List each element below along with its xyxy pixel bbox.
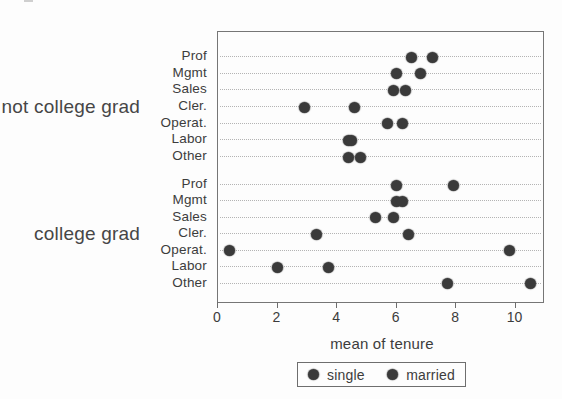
x-tick-8 — [455, 302, 456, 308]
dot-college-grad-operat-married — [504, 245, 515, 256]
category-label-not-college-grad-other: Other — [0, 147, 207, 165]
dot-not-college-grad-other-married — [355, 152, 366, 163]
category-label-college-grad-cler: Cler. — [0, 224, 207, 242]
x-tick-6 — [396, 302, 397, 308]
gridline-not-college-grad-cler — [220, 106, 541, 107]
category-label-college-grad-sales: Sales — [0, 208, 207, 226]
dot-not-college-grad-sales-married — [400, 85, 411, 96]
legend-entry-single: single — [308, 367, 365, 383]
x-tick-0 — [217, 302, 218, 308]
dot-not-college-grad-prof-married — [427, 52, 438, 63]
dot-not-college-grad-mgmt-married — [415, 68, 426, 79]
category-label-not-college-grad-operat: Operat. — [0, 114, 207, 132]
gridline-not-college-grad-labor — [220, 139, 541, 140]
dot-plot-figure: not college grad college grad mean of te… — [0, 0, 562, 399]
dot-college-grad-prof-married — [448, 180, 459, 191]
dot-college-grad-sales-single — [370, 212, 381, 223]
gridline-college-grad-prof — [220, 184, 541, 185]
gridline-not-college-grad-mgmt — [220, 73, 541, 74]
category-label-not-college-grad-labor: Labor — [0, 130, 207, 148]
dot-college-grad-other-married — [525, 278, 536, 289]
dot-not-college-grad-prof-single — [406, 52, 417, 63]
x-tick-10 — [515, 302, 516, 308]
plot-area — [217, 31, 544, 303]
gridline-college-grad-other — [220, 283, 541, 284]
category-label-not-college-grad-cler: Cler. — [0, 97, 207, 115]
category-label-college-grad-labor: Labor — [0, 257, 207, 275]
category-label-not-college-grad-prof: Prof — [0, 47, 207, 65]
legend-label-single: single — [327, 367, 365, 383]
dot-not-college-grad-sales-single — [388, 85, 399, 96]
category-label-not-college-grad-mgmt: Mgmt — [0, 64, 207, 82]
x-tick-label-8: 8 — [438, 309, 472, 325]
x-axis-title: mean of tenure — [282, 335, 482, 352]
legend-entry-married: married — [387, 367, 455, 383]
legend-label-married: married — [406, 367, 455, 383]
gridline-college-grad-cler — [220, 233, 541, 234]
x-tick-4 — [336, 302, 337, 308]
dot-not-college-grad-operat-married — [397, 118, 408, 129]
married-marker-icon — [387, 369, 398, 380]
dot-college-grad-other-single — [442, 278, 453, 289]
gridline-not-college-grad-other — [220, 156, 541, 157]
gridline-college-grad-mgmt — [220, 200, 541, 201]
x-tick-label-2: 2 — [260, 309, 294, 325]
x-tick-label-6: 6 — [379, 309, 413, 325]
gridline-not-college-grad-prof — [220, 56, 541, 57]
category-label-college-grad-prof: Prof — [0, 175, 207, 193]
scan-artifact — [24, 0, 33, 2]
dot-college-grad-mgmt-married — [397, 196, 408, 207]
dot-not-college-grad-cler-married — [349, 102, 360, 113]
dot-college-grad-labor-single — [272, 262, 283, 273]
dot-not-college-grad-other-single — [343, 152, 354, 163]
dot-college-grad-labor-married — [323, 262, 334, 273]
dot-not-college-grad-operat-single — [382, 118, 393, 129]
gridline-not-college-grad-operat — [220, 123, 541, 124]
dot-college-grad-cler-married — [403, 229, 414, 240]
dot-college-grad-prof-single — [391, 180, 402, 191]
dot-not-college-grad-mgmt-single — [391, 68, 402, 79]
dot-college-grad-cler-single — [311, 229, 322, 240]
category-label-not-college-grad-sales: Sales — [0, 80, 207, 98]
dot-college-grad-operat-single — [224, 245, 235, 256]
x-tick-2 — [277, 302, 278, 308]
gridline-college-grad-labor — [220, 266, 541, 267]
gridline-college-grad-operat — [220, 250, 541, 251]
dot-not-college-grad-cler-single — [299, 102, 310, 113]
dot-college-grad-sales-married — [388, 212, 399, 223]
category-label-college-grad-operat: Operat. — [0, 241, 207, 259]
x-tick-label-4: 4 — [319, 309, 353, 325]
single-marker-icon — [308, 369, 319, 380]
legend: single married — [297, 362, 466, 387]
gridline-not-college-grad-sales — [220, 89, 541, 90]
category-label-college-grad-other: Other — [0, 274, 207, 292]
dot-not-college-grad-labor-married — [346, 135, 357, 146]
x-tick-label-10: 10 — [498, 309, 532, 325]
category-label-college-grad-mgmt: Mgmt — [0, 191, 207, 209]
x-tick-label-0: 0 — [200, 309, 234, 325]
